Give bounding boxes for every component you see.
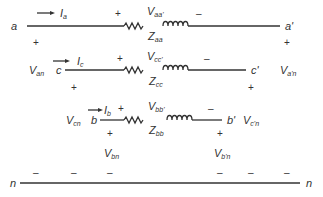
minus-sign: – <box>248 168 254 178</box>
voltage-vcn-label: Vcn <box>66 115 81 129</box>
impedance-zcc-label: Zcc <box>149 76 163 90</box>
voltage-vapn-label: Va'n <box>280 65 296 79</box>
plus-sign: + <box>33 38 39 48</box>
minus-sign: – <box>33 168 39 178</box>
minus-sign: – <box>196 9 202 19</box>
node-a-label: a <box>11 21 17 32</box>
node-c-label: c <box>56 65 62 76</box>
plus-sign: + <box>115 9 121 19</box>
minus-sign: – <box>71 168 77 178</box>
node-n-right-label: n <box>306 178 312 189</box>
voltage-vbpn-label: Vb'n <box>214 148 230 162</box>
minus-sign: – <box>284 168 290 178</box>
voltage-vbb-label: Vbb' <box>148 101 164 115</box>
impedance-zaa-label: Zaa <box>148 31 163 45</box>
node-n-left-label: n <box>10 178 16 189</box>
plus-sign: + <box>248 83 254 93</box>
node-c-prime-label: c' <box>251 65 259 76</box>
voltage-van-label: Van <box>29 65 44 79</box>
current-ia-label: Ia <box>60 8 67 22</box>
voltage-vbn-label: Vbn <box>104 148 119 162</box>
voltage-vaa-label: Vaa' <box>147 6 163 20</box>
voltage-vcc-label: Vcc' <box>147 51 163 65</box>
node-a-prime-label: a' <box>285 21 293 32</box>
plus-sign: + <box>117 54 123 64</box>
current-ib-label: Ib <box>104 105 111 119</box>
voltage-vcpn-label: Vc'n <box>243 115 259 129</box>
minus-sign: – <box>107 168 113 178</box>
current-ic-label: Ic <box>77 56 84 70</box>
plus-sign: + <box>118 104 124 114</box>
impedance-zbb-label: Zbb <box>149 125 164 139</box>
plus-sign: + <box>71 83 77 93</box>
minus-sign: – <box>204 54 210 64</box>
minus-sign: – <box>208 104 214 114</box>
plus-sign: + <box>284 38 290 48</box>
plus-sign: + <box>217 129 223 139</box>
minus-sign: – <box>217 168 223 178</box>
node-b-label: b <box>91 115 97 126</box>
circuit-wiring <box>0 0 323 197</box>
plus-sign: + <box>107 129 113 139</box>
node-b-prime-label: b' <box>227 115 235 126</box>
